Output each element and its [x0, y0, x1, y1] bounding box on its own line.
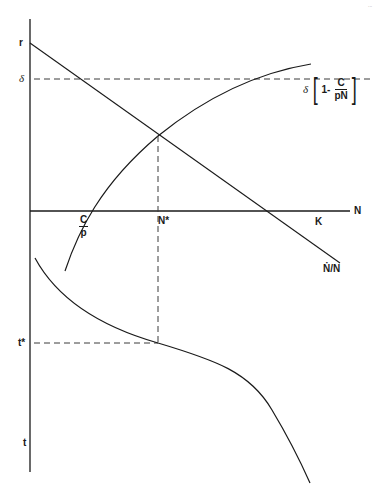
formula-delta: δ [303, 83, 308, 95]
marginal-profit-curve [65, 64, 311, 271]
c-over-p-label: C p [79, 215, 88, 238]
page-mark: ... [368, 2, 372, 8]
formula-numerator: C [335, 78, 346, 90]
formula-fraction: C pN [334, 78, 347, 101]
formula-one-minus: 1- [321, 84, 330, 95]
r-label: r [19, 38, 23, 48]
t-label: t [23, 438, 26, 448]
formula-denominator: pN [334, 90, 347, 101]
marginal-profit-formula: δ [ 1- C pN ] [303, 74, 358, 104]
growth-rate-line [30, 43, 340, 263]
t-star-label: t* [18, 338, 25, 348]
growth-rate-label: Ṅ/N [323, 264, 340, 274]
time-path-curve [35, 258, 310, 483]
formula-right-bracket: ] [351, 74, 356, 104]
c-over-p-denominator: p [81, 227, 87, 238]
formula-left-bracket: [ [313, 74, 318, 104]
c-over-p-numerator: C [79, 215, 88, 227]
n-axis-label: N [354, 206, 361, 216]
n-star-label: N* [158, 216, 169, 226]
k-label: K [315, 217, 322, 227]
delta-label: δ [19, 73, 24, 84]
